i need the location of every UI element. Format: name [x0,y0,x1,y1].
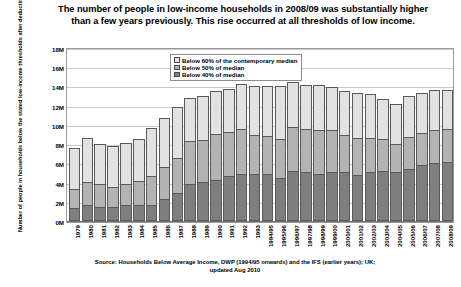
bar-segment[interactable] [403,169,415,221]
bar-column[interactable] [82,50,94,221]
legend-label: Below 60% of the contemporary median [182,57,297,64]
y-axis-tick-label: 2M [38,199,64,206]
bar-segment[interactable] [223,176,235,221]
source-line: updated Aug 2010 [40,266,430,274]
bar-segment[interactable] [210,180,222,221]
y-axis-tick-label: 12M [38,103,64,110]
y-axis-tick-label: 18M [38,46,64,53]
bar-segment[interactable] [120,205,132,221]
bar-segment[interactable] [326,172,338,221]
bar-column[interactable] [159,50,171,221]
bar-column[interactable] [442,50,454,221]
bar-segment[interactable] [365,172,377,221]
bar-segment[interactable] [249,174,261,221]
x-axis-tick-label: 1988 [191,225,198,239]
x-axis-tick-label: 1993 [255,225,262,239]
bar-column[interactable] [403,50,415,221]
bar-segment[interactable] [287,171,299,221]
x-axis-tick-label: 1987 [178,225,185,239]
bar-segment[interactable] [377,171,389,221]
x-axis-tick-label: 1995/96 [281,225,288,247]
x-axis-tick-label: 2007/08 [435,225,442,247]
bar-segment[interactable] [236,174,248,221]
x-axis-tick-label: 1999/00 [332,225,339,247]
x-axis-tick-label: 1994/95 [268,225,275,247]
bar-segment[interactable] [339,172,351,221]
bar-column[interactable] [94,50,106,221]
bar-segment[interactable] [390,172,402,221]
bar-column[interactable] [107,50,119,221]
x-axis-tick-label: 1998/99 [320,225,327,247]
bar-column[interactable] [339,50,351,221]
x-axis-tick-label: 1982 [114,225,121,239]
y-axis-tick-label: 0M [38,219,64,226]
x-axis-tick-label: 2004/05 [397,225,404,247]
bar-column[interactable] [313,50,325,221]
bar-segment[interactable] [300,172,312,221]
bar-column[interactable] [69,50,81,221]
bar-column[interactable] [390,50,402,221]
bar-segment[interactable] [69,208,81,221]
chart-legend: Below 60% of the contemporary medianBelo… [170,54,302,81]
bar-column[interactable] [416,50,428,221]
x-axis-tick-label: 1992 [242,225,249,239]
bar-segment[interactable] [442,162,454,221]
legend-swatch-icon [174,72,180,78]
bar-segment[interactable] [159,199,171,221]
source-note: Source: Households Below Average Income,… [40,258,430,274]
x-axis-tick-label: 1983 [127,225,134,239]
chart-container: The number of people in low-income house… [0,0,461,287]
y-axis-title: Number of people in households below the… [8,56,34,232]
bar-segment[interactable] [184,184,196,221]
bar-segment[interactable] [133,205,145,221]
y-axis-tick-label: 8M [38,142,64,149]
x-axis-tick-label: 1985 [152,225,159,239]
x-axis-tick-label: 2005/06 [410,225,417,247]
x-axis-tick-label: 1990 [217,225,224,239]
bar-segment[interactable] [429,163,441,221]
bar-column[interactable] [133,50,145,221]
bar-segment[interactable] [94,207,106,221]
bar-segment[interactable] [416,165,428,221]
bar-segment[interactable] [107,207,119,221]
bar-segment[interactable] [352,175,364,221]
bar-column[interactable] [120,50,132,221]
bar-column[interactable] [352,50,364,221]
legend-label: Below 50% of median [182,64,244,71]
y-axis-title-text: Number of people in households below the… [17,56,24,232]
x-axis-tick-label: 2002/03 [371,225,378,247]
bar-segment[interactable] [197,182,209,221]
x-axis-tick-label: 1980 [88,225,95,239]
bar-column[interactable] [326,50,338,221]
legend-swatch-icon [174,57,180,63]
bar-segment[interactable] [172,193,184,221]
x-axis-tick-label: 2006/07 [422,225,429,247]
x-axis-tick-label: 1997/98 [307,225,314,247]
bar-column[interactable] [365,50,377,221]
source-line: Source: Households Below Average Income,… [40,258,430,266]
x-axis-tick-label: 1981 [101,225,108,239]
bar-segment[interactable] [262,174,274,221]
x-axis-tick-label: 1979 [75,225,82,239]
legend-label: Below 40% of median [182,71,244,78]
legend-swatch-icon [174,65,180,71]
bar-segment[interactable] [275,178,287,221]
x-axis-tick-labels: 1979198019811982198319841985198619871988… [66,225,454,259]
legend-item: Below 60% of the contemporary median [174,57,297,64]
x-axis-tick-label: 2008/09 [448,225,455,247]
bar-segment[interactable] [146,205,158,221]
y-axis-tick-label: 4M [38,180,64,187]
x-axis-tick-label: 2001/02 [358,225,365,247]
bar-column[interactable] [146,50,158,221]
legend-item: Below 50% of median [174,64,297,71]
x-axis-line [67,221,453,222]
y-axis-tick-label: 10M [38,122,64,129]
y-axis-tick-labels: 0M2M4M6M8M10M12M14M16M18M [36,48,64,223]
bar-segment[interactable] [82,205,94,221]
bar-column[interactable] [377,50,389,221]
bar-segment[interactable] [313,174,325,221]
bar-column[interactable] [429,50,441,221]
x-axis-tick-label: 2000/01 [345,225,352,247]
x-axis-tick-label: 1984 [139,225,146,239]
x-axis-tick-label: 2003/04 [384,225,391,247]
